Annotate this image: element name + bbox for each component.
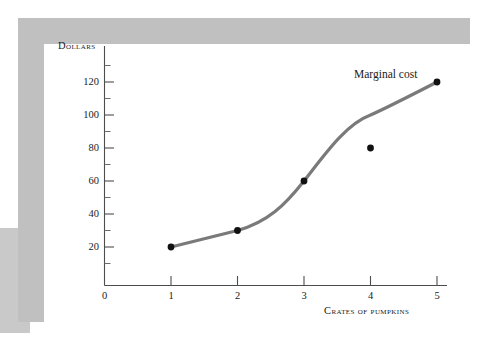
data-point [434,79,441,86]
x-axis-ticks [171,276,437,286]
y-tick-label-100: 100 [73,109,99,120]
x-tick-label-4: 4 [363,290,379,301]
x-tick-label-2: 2 [230,290,246,301]
data-point [168,244,175,251]
series-markers-marginal-cost [168,79,441,251]
y-tick-label-80: 80 [73,142,99,153]
figure-root: Dollars Crates of pumpkins Marginal cost… [0,0,492,346]
x-tick-label-3: 3 [296,290,312,301]
chart-canvas [0,0,492,346]
data-point [234,227,241,234]
x-axis-title: Crates of pumpkins [324,305,409,316]
x-tick-label-1: 1 [163,290,179,301]
y-axis-minor-ticks [105,66,111,264]
series-line-marginal-cost [171,82,437,247]
y-tick-label-40: 40 [73,208,99,219]
series-annotation-marginal-cost: Marginal cost [354,68,417,80]
y-tick-label-20: 20 [73,241,99,252]
y-tick-label-60: 60 [73,175,99,186]
y-tick-label-120: 120 [73,76,99,87]
x-tick-label-0: 0 [97,290,113,301]
y-axis-title: Dollars [58,40,96,51]
x-tick-label-5: 5 [429,290,445,301]
data-point [367,145,374,152]
data-point [301,178,308,185]
